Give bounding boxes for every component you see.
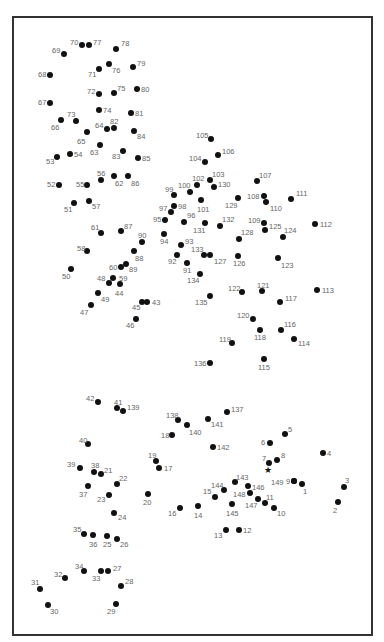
- dot-12[interactable]: [236, 527, 242, 533]
- dot-37[interactable]: [85, 483, 91, 489]
- dot-16[interactable]: [177, 505, 183, 511]
- dot-24[interactable]: [111, 510, 117, 516]
- dot-label: 60: [109, 264, 117, 272]
- dot-120[interactable]: [250, 316, 256, 322]
- dot-28[interactable]: [118, 583, 124, 589]
- dot-39[interactable]: [77, 465, 83, 471]
- dot-98[interactable]: [171, 203, 177, 209]
- dot-111[interactable]: [288, 196, 294, 202]
- dot-label: 134: [187, 277, 200, 285]
- dot-13[interactable]: [223, 527, 229, 533]
- dot-139[interactable]: [120, 408, 126, 414]
- dot-81[interactable]: [128, 110, 134, 116]
- dot-80[interactable]: [134, 86, 140, 92]
- dot-125[interactable]: [262, 227, 268, 233]
- dot-72[interactable]: [96, 91, 102, 97]
- dot-130[interactable]: [211, 184, 217, 190]
- dot-127[interactable]: [207, 252, 213, 258]
- dot-85[interactable]: [135, 155, 141, 161]
- dot-18[interactable]: [169, 432, 175, 438]
- dot-label: 61: [91, 224, 99, 232]
- dot-69[interactable]: [61, 51, 67, 57]
- dot-95[interactable]: [162, 217, 168, 223]
- dot-106[interactable]: [215, 152, 221, 158]
- dot-104[interactable]: [202, 159, 208, 165]
- dot-label: 52: [47, 181, 55, 189]
- dot-32[interactable]: [62, 575, 68, 581]
- dot-97[interactable]: [168, 209, 174, 215]
- dot-27[interactable]: [105, 568, 111, 574]
- dot-101[interactable]: [198, 197, 204, 203]
- dot-6[interactable]: [267, 440, 273, 446]
- dot-label: 116: [284, 321, 296, 329]
- dot-79[interactable]: [130, 64, 136, 70]
- dot-142[interactable]: [210, 444, 216, 450]
- dot-78[interactable]: [113, 46, 119, 52]
- dot-35[interactable]: [81, 531, 87, 537]
- dot-label: 25: [103, 541, 111, 549]
- dot-55[interactable]: [84, 182, 90, 188]
- dot-36[interactable]: [90, 532, 96, 538]
- dot-label: 64: [95, 122, 103, 130]
- dot-20[interactable]: [145, 491, 151, 497]
- dot-label: 6: [261, 439, 265, 447]
- dot-label: 33: [92, 575, 100, 583]
- dot-label: 68: [38, 71, 46, 79]
- dot-148[interactable]: [247, 490, 253, 496]
- dot-25[interactable]: [104, 533, 110, 539]
- dot-label: 76: [112, 67, 120, 75]
- dot-110[interactable]: [263, 199, 269, 205]
- dot-17[interactable]: [156, 465, 162, 471]
- dot-70[interactable]: [79, 42, 85, 48]
- dot-label: 146: [252, 484, 265, 492]
- dot-137[interactable]: [224, 409, 230, 415]
- dot-67[interactable]: [47, 100, 53, 106]
- dot-label: 105: [196, 132, 209, 140]
- dot-112[interactable]: [312, 221, 318, 227]
- dot-48[interactable]: [106, 280, 112, 286]
- dot-146[interactable]: [245, 483, 251, 489]
- dot-42[interactable]: [95, 399, 101, 405]
- dot-59[interactable]: [110, 275, 116, 281]
- dot-label: 1: [303, 488, 307, 496]
- dot-label: 22: [119, 475, 127, 483]
- dot-83[interactable]: [120, 148, 126, 154]
- dot-114[interactable]: [291, 336, 297, 342]
- dot-label: 3: [345, 477, 349, 485]
- dot-label: 8: [281, 452, 285, 460]
- dot-label: 23: [97, 496, 105, 504]
- dot-136[interactable]: [207, 360, 213, 366]
- dot-149[interactable]: [291, 478, 297, 484]
- dot-14[interactable]: [195, 503, 201, 509]
- dot-label: 28: [125, 578, 133, 586]
- dot-15[interactable]: [212, 494, 218, 500]
- dot-label: 148: [233, 491, 246, 499]
- dot-77[interactable]: [86, 42, 92, 48]
- dot-label: 66: [51, 124, 59, 132]
- dot-8[interactable]: [274, 457, 280, 463]
- dot-145[interactable]: [229, 501, 235, 507]
- dot-label: 125: [269, 223, 282, 231]
- dot-54[interactable]: [67, 151, 73, 157]
- dot-113[interactable]: [314, 287, 320, 293]
- dot-2[interactable]: [335, 499, 341, 505]
- dot-23[interactable]: [106, 492, 112, 498]
- dot-53[interactable]: [54, 154, 60, 160]
- dot-117[interactable]: [277, 299, 283, 305]
- dot-93[interactable]: [178, 242, 184, 248]
- dot-135[interactable]: [207, 293, 213, 299]
- dot-109[interactable]: [261, 220, 267, 226]
- dot-71[interactable]: [96, 66, 102, 72]
- dot-47[interactable]: [88, 302, 94, 308]
- dot-label: 143: [236, 474, 249, 482]
- dot-65[interactable]: [84, 129, 90, 135]
- dot-68[interactable]: [47, 72, 53, 78]
- dot-64[interactable]: [104, 126, 110, 132]
- dot-74[interactable]: [96, 107, 102, 113]
- dot-label: 11: [266, 494, 274, 502]
- dot-105[interactable]: [208, 136, 214, 142]
- dot-label: 43: [152, 299, 160, 307]
- dot-115[interactable]: [261, 356, 267, 362]
- dot-52[interactable]: [56, 182, 62, 188]
- dot-4[interactable]: [320, 450, 326, 456]
